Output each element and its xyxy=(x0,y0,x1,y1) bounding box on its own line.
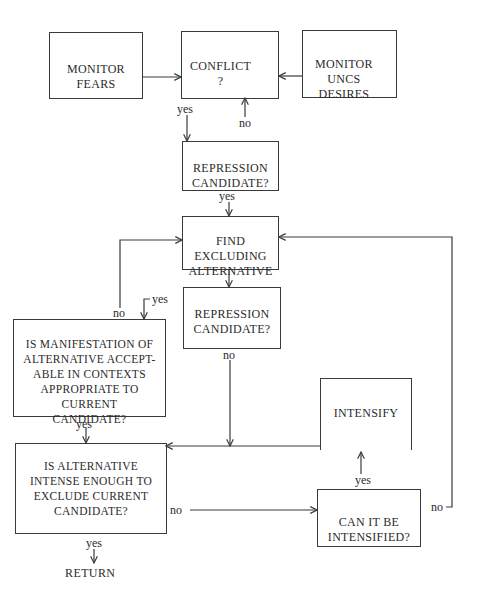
node-is-alternative-intense-text: IS ALTERNATIVE INTENSE ENOUGH TO EXCLUDE… xyxy=(30,460,152,517)
label-manifestation-yes: yes xyxy=(76,418,92,430)
node-can-it-be-intensified: CAN IT BE INTENSIFIED? xyxy=(317,489,421,547)
label-intense-no: no xyxy=(170,504,182,516)
node-monitor-uncs-desires-text: MONITOR UNCS DESIRES xyxy=(315,57,373,102)
label-repression1-yes: yes xyxy=(219,190,235,202)
label-manifestation-no: no xyxy=(113,307,125,319)
node-monitor-fears-text: MONITOR FEARS xyxy=(67,62,125,91)
label-conflict-no: no xyxy=(239,117,251,129)
node-monitor-uncs-desires: MONITOR UNCS DESIRES xyxy=(302,30,397,98)
edge-manifestation-no xyxy=(120,240,182,308)
node-find-excluding-alternative: FIND EXCLUDING ALTERNATIVE xyxy=(182,216,279,270)
label-intensified-yes: yes xyxy=(355,474,371,486)
node-return: RETURN xyxy=(65,566,115,581)
node-is-alternative-intense: IS ALTERNATIVE INTENSE ENOUGH TO EXCLUDE… xyxy=(15,443,167,534)
label-intense-yes: yes xyxy=(86,537,102,549)
node-intensify: INTENSIFY xyxy=(320,378,412,450)
node-monitor-fears: MONITOR FEARS xyxy=(49,32,143,99)
node-repression-candidate-2-text: REPRESSION CANDIDATE? xyxy=(194,307,271,336)
node-is-manifestation-acceptable: IS MANIFESTATION OF ALTERNATIVE ACCEPT- … xyxy=(13,319,166,417)
node-repression-candidate-2: REPRESSION CANDIDATE? xyxy=(183,287,281,349)
node-find-excluding-alternative-text: FIND EXCLUDING ALTERNATIVE xyxy=(188,234,272,278)
flowchart-canvas: MONITOR FEARS CONFLICT ? MONITOR UNCS DE… xyxy=(0,0,480,606)
node-repression-candidate-1-text: REPRESSION CANDIDATE? xyxy=(192,161,269,190)
node-repression-candidate-1: REPRESSION CANDIDATE? xyxy=(182,141,279,191)
node-can-it-be-intensified-text: CAN IT BE INTENSIFIED? xyxy=(328,515,410,544)
label-intensified-no: no xyxy=(431,501,443,513)
edge-repression2-yes xyxy=(144,299,150,319)
label-repression2-yes: yes xyxy=(152,293,168,305)
label-conflict-yes: yes xyxy=(177,103,193,115)
label-repression2-no: no xyxy=(223,349,235,361)
node-conflict-text: CONFLICT ? xyxy=(190,59,251,89)
node-intensify-text: INTENSIFY xyxy=(334,406,399,420)
node-conflict: CONFLICT ? xyxy=(181,31,279,99)
edge-intensified-no xyxy=(279,237,452,507)
node-is-manifestation-acceptable-text: IS MANIFESTATION OF ALTERNATIVE ACCEPT- … xyxy=(23,338,155,425)
